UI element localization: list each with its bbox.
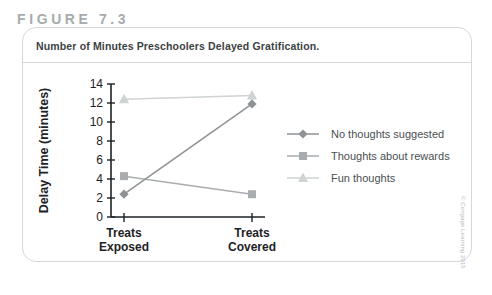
figure-caption: Number of Minutes Preschoolers Delayed G… [36, 40, 456, 52]
x-axis-category-label: Treats [234, 226, 270, 240]
y-axis-tick-label: 2 [96, 191, 103, 205]
line-chart: 02468101214TreatsExposedTreatsCoveredDel… [22, 62, 472, 262]
marker-triangle [247, 90, 257, 99]
marker-diamond [247, 99, 256, 108]
figure-screenshot: FIGURE 7.3 Number of Minutes Preschooler… [0, 0, 492, 295]
y-axis-tick-label: 4 [96, 172, 103, 186]
series-line [124, 104, 252, 194]
y-axis-tick-label: 6 [96, 153, 103, 167]
y-axis-tick-label: 8 [96, 134, 103, 148]
legend-label: No thoughts suggested [331, 128, 444, 140]
x-axis-category-label: Exposed [99, 240, 149, 254]
legend-label: Thoughts about rewards [331, 150, 450, 162]
y-axis-tick-label: 14 [90, 77, 104, 91]
chart-plot-area: 02468101214TreatsExposedTreatsCoveredDel… [22, 62, 472, 262]
marker-square [120, 172, 128, 180]
marker-square [248, 190, 256, 198]
copyright-notice: © Cengage Learning 2015 [460, 196, 466, 269]
marker-diamond [119, 190, 128, 199]
marker-diamond [298, 129, 307, 138]
x-axis-category-label: Treats [106, 226, 142, 240]
marker-square [299, 152, 307, 160]
legend-label: Fun thoughts [331, 172, 396, 184]
figure-number-label: FIGURE 7.3 [17, 11, 129, 27]
y-axis-tick-label: 0 [96, 210, 103, 224]
series-line [124, 95, 252, 99]
series-line [124, 176, 252, 194]
x-axis-category-label: Covered [228, 240, 276, 254]
y-axis-title: Delay Time (minutes) [37, 88, 51, 214]
y-axis-tick-label: 12 [90, 96, 104, 110]
y-axis-tick-label: 10 [90, 115, 104, 129]
